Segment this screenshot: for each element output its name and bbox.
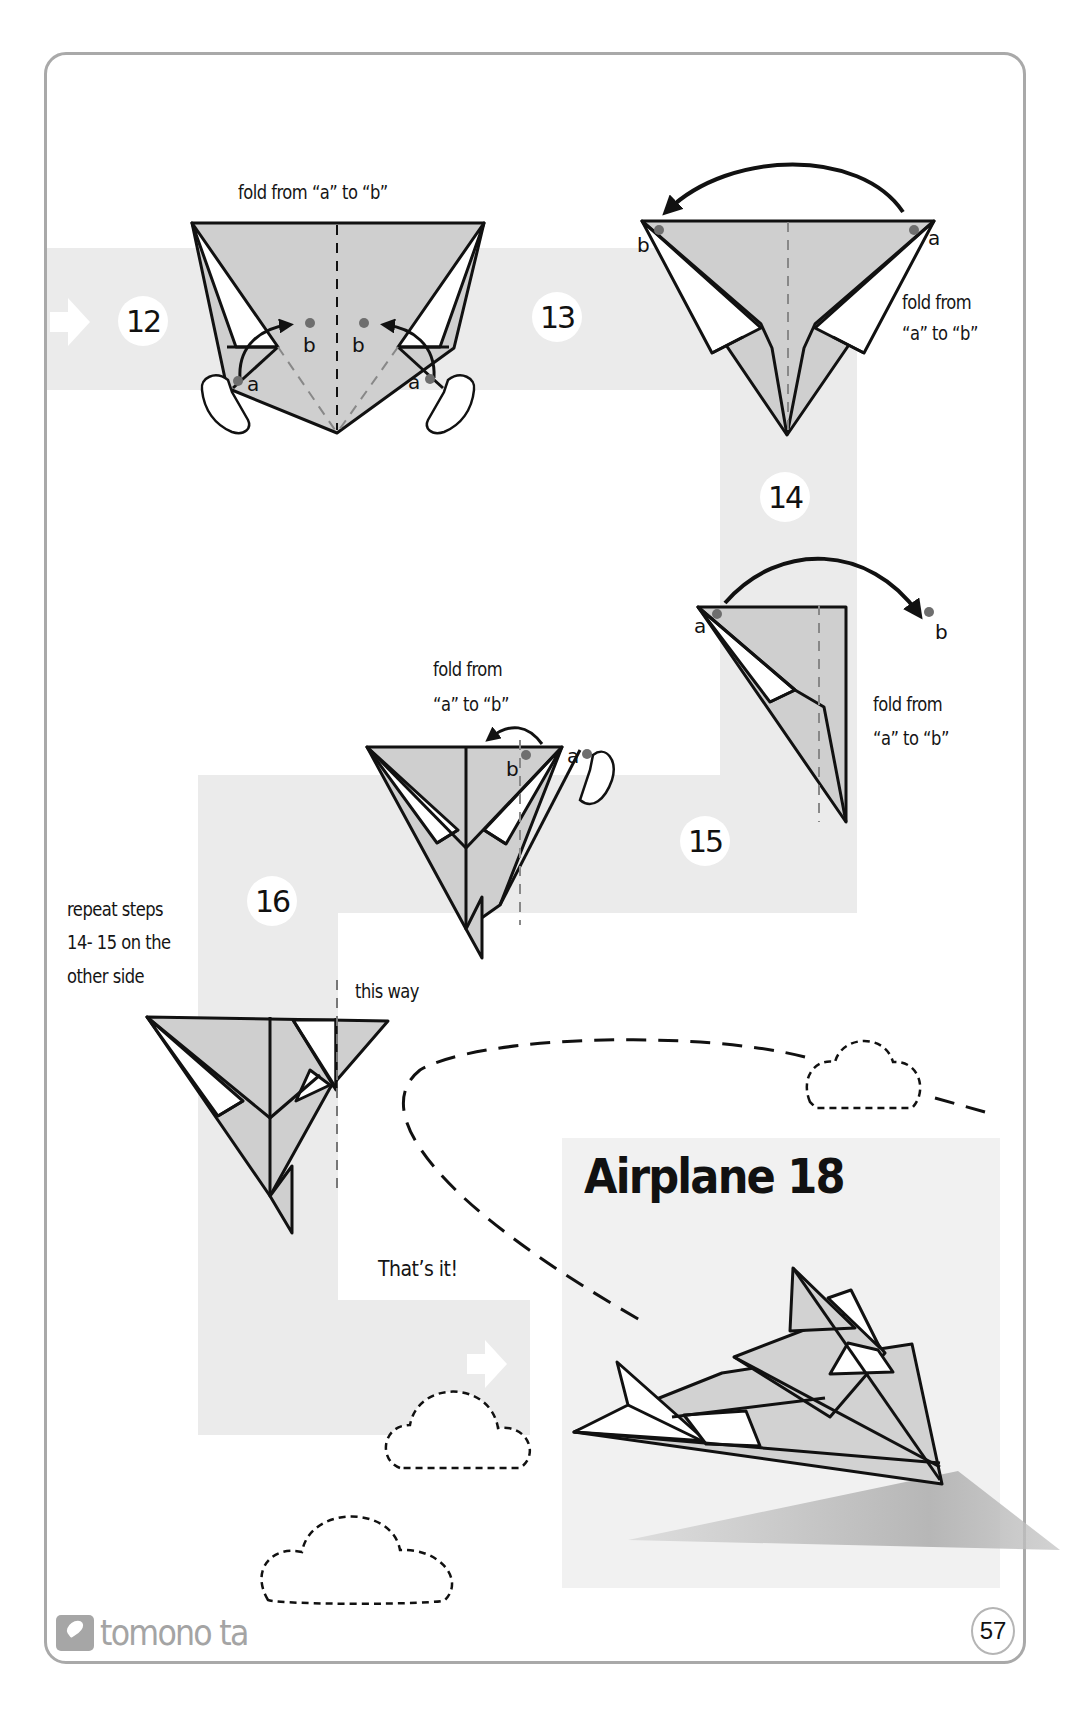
step-number-15: 15 (680, 816, 730, 866)
page-number: 57 (971, 1607, 1015, 1655)
marker-a: a (694, 614, 706, 638)
step-14-instruction-line2: “a” to “b” (873, 722, 949, 755)
brand-logo-icon (56, 1615, 94, 1651)
marker-b: b (303, 333, 316, 357)
brand-name: tomono ta (100, 1612, 248, 1653)
step-13-instruction-line1: fold from (902, 286, 971, 319)
step-number-16: 16 (247, 876, 297, 926)
step-16-instruction-line2: 14- 15 on the (67, 926, 171, 959)
step-13-diagram (642, 165, 934, 436)
this-way-note: this way (355, 975, 419, 1008)
step-15-instruction-line1: fold from (433, 653, 502, 686)
marker-b: b (352, 333, 365, 357)
step-15-instruction-line2: “a” to “b” (433, 688, 509, 721)
step-16-instruction-line1: repeat steps (67, 893, 163, 926)
marker-b: b (935, 620, 948, 644)
step-12-instruction: fold from “a” to “b” (238, 176, 388, 209)
step-number-14: 14 (760, 472, 810, 522)
thats-it-message: That’s it! (378, 1252, 458, 1285)
marker-a: a (928, 226, 940, 250)
step-number-12: 12 (118, 296, 168, 346)
step-13-instruction-line2: “a” to “b” (902, 317, 978, 350)
marker-b: b (506, 757, 519, 781)
model-title: Airplane 18 (584, 1148, 844, 1204)
step-14-instruction-line1: fold from (873, 688, 942, 721)
step-16-instruction-line3: other side (67, 960, 144, 993)
instruction-diagram: b b a a b a a b (0, 0, 1073, 1726)
marker-b: b (637, 233, 650, 257)
marker-a: a (408, 370, 420, 394)
brand-footer: tomono ta (56, 1612, 268, 1653)
marker-a: a (247, 372, 259, 396)
marker-a: a (567, 744, 579, 768)
step-number-13: 13 (532, 292, 582, 342)
